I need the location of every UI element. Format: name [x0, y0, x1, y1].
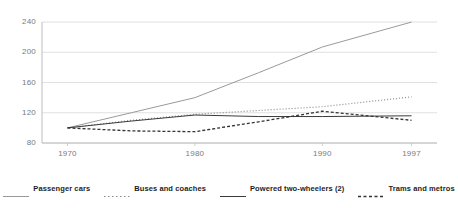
legend-swatch-powered-two-wheelers	[220, 186, 246, 193]
x-tick-label: 1970	[47, 150, 87, 158]
plot-area: 80120160200240 1970198019901997	[0, 0, 458, 165]
data-series-layer	[67, 22, 411, 132]
legend-item-trams-and-metros[interactable]: Trams and metros	[358, 185, 454, 193]
plot-svg	[0, 0, 458, 165]
y-tick-label: 200	[2, 48, 36, 56]
series-line	[67, 111, 411, 131]
y-tick-label: 80	[2, 139, 36, 147]
legend-item-passenger-cars[interactable]: Passenger cars	[3, 185, 90, 193]
x-tick-label: 1997	[392, 150, 432, 158]
series-line	[67, 22, 411, 128]
legend-swatch-trams-and-metros	[358, 186, 384, 193]
chart-legend: Passenger carsBuses and coachesPowered t…	[0, 178, 458, 200]
y-tick-label: 120	[2, 109, 36, 117]
x-tick-label: 1990	[302, 150, 342, 158]
legend-item-buses-and-coaches[interactable]: Buses and coaches	[104, 185, 206, 193]
legend-swatch-passenger-cars	[3, 186, 29, 193]
legend-item-powered-two-wheelers[interactable]: Powered two-wheelers (2)	[220, 185, 345, 193]
line-chart: 80120160200240 1970198019901997 Passenge…	[0, 0, 458, 208]
y-tick-label: 160	[2, 79, 36, 87]
series-line	[67, 115, 411, 128]
legend-swatch-buses-and-coaches	[104, 186, 130, 193]
legend-label-trams-and-metros: Trams and metros	[388, 185, 454, 193]
x-tick-label: 1980	[175, 150, 215, 158]
y-tick-label: 240	[2, 18, 36, 26]
legend-label-buses-and-coaches: Buses and coaches	[134, 185, 206, 193]
legend-label-powered-two-wheelers: Powered two-wheelers (2)	[250, 185, 345, 193]
legend-label-passenger-cars: Passenger cars	[33, 185, 90, 193]
